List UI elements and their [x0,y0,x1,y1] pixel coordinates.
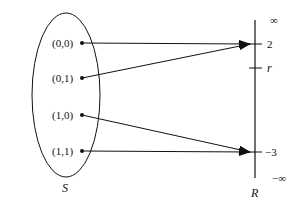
arrow-0-1-to-2 [82,44,250,78]
element-1-1: (1,1) [52,145,84,158]
element-0-0: (0,0) [52,37,84,50]
arrow-1-0-to-neg3 [82,115,250,152]
element-label: (0,0) [52,37,73,50]
tick-label-neg3: −3 [265,146,277,158]
tick-label-2: 2 [267,38,273,50]
mapping-diagram: (0,0) (0,1) (1,0) (1,1) S ∞ −∞ R 2 r −3 [0,0,304,207]
arrow-0-0-to-2 [82,43,250,44]
arrow-1-1-to-neg3 [82,151,250,152]
infinity-label: ∞ [270,14,278,26]
neg-infinity-label: −∞ [272,172,286,184]
element-label: (1,0) [52,109,73,122]
set-r-label: R [250,186,259,200]
element-1-0: (1,0) [52,109,84,122]
element-label: (0,1) [52,72,73,85]
element-0-1: (0,1) [52,72,84,85]
tick-label-r: r [267,61,272,75]
element-label: (1,1) [52,145,73,158]
set-s-label: S [62,181,68,195]
